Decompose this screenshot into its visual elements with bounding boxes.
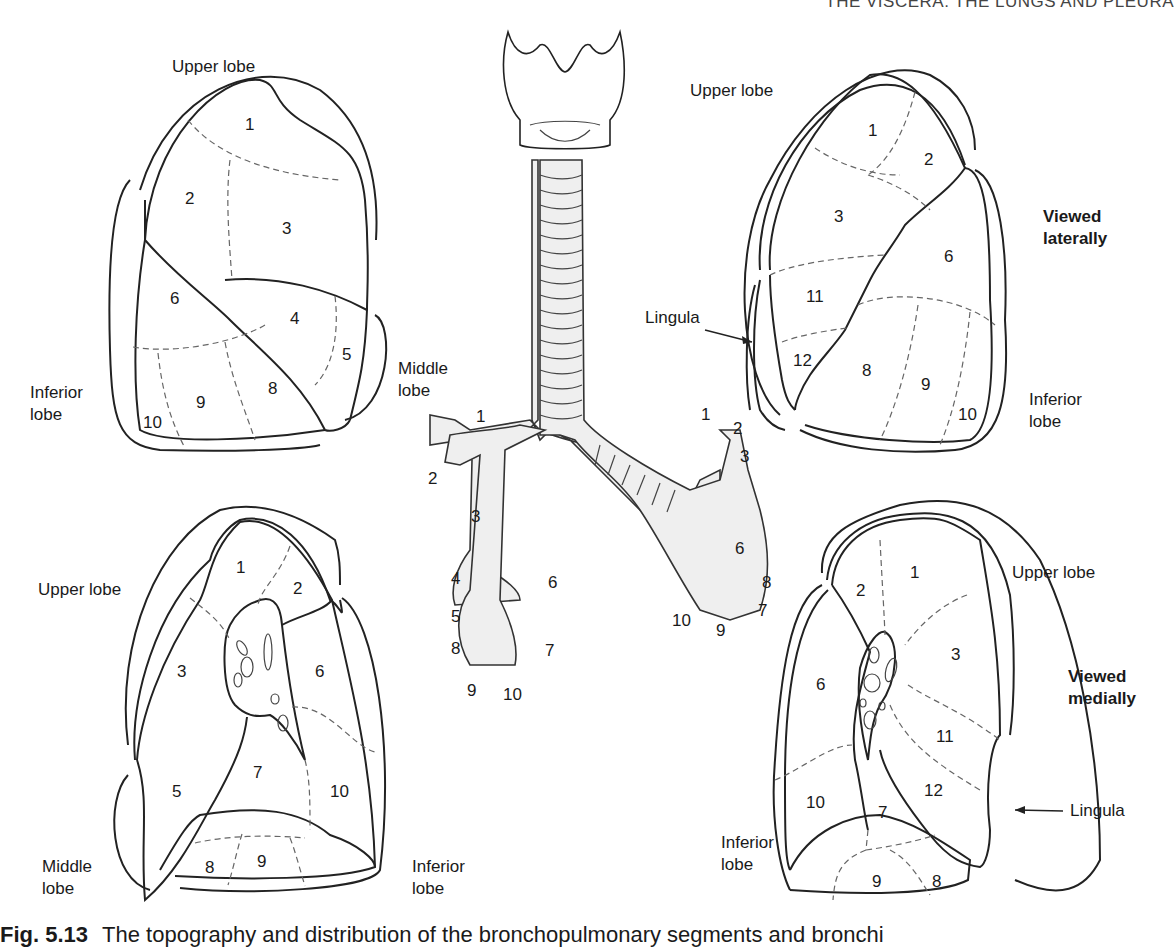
segment-label: 6 <box>944 247 953 266</box>
upper-lobe-label: Upper lobe <box>38 580 121 599</box>
segment-label: 5 <box>172 782 181 801</box>
caption-text: The topography and distribution of the b… <box>102 922 884 947</box>
left-lung-lateral-view: 1 2 3 6 11 12 8 9 10 Upper lobe Lingula … <box>645 70 1108 452</box>
upper-lobe-label: Upper lobe <box>1012 563 1095 582</box>
segment-label: 1 <box>868 121 877 140</box>
segment-label: 3 <box>282 219 291 238</box>
figure-caption: Fig. 5.13The topography and distribution… <box>0 922 884 948</box>
segment-label: 1 <box>910 563 919 582</box>
inferior-lobe-label: Inferior <box>30 383 83 402</box>
upper-lobe-label: Upper lobe <box>690 81 773 100</box>
inferior-lobe-label: lobe <box>30 405 62 424</box>
segment-label: 10 <box>806 793 825 812</box>
right-bronchus-label: 8 <box>451 639 460 658</box>
lingula-label: Lingula <box>645 308 700 327</box>
segment-label: 6 <box>816 675 825 694</box>
right-bronchus-label: 4 <box>451 569 460 588</box>
segment-label: 12 <box>793 351 812 370</box>
segment-label: 5 <box>342 345 351 364</box>
segment-label: 9 <box>257 852 266 871</box>
segment-label: 9 <box>196 393 205 412</box>
segment-label: 6 <box>315 662 324 681</box>
bronchial-tree: 1 2 3 4 5 6 7 8 9 10 1 2 3 6 8 7 9 10 <box>428 32 771 704</box>
segment-label: 3 <box>951 645 960 664</box>
right-lung-lateral-view: 1 2 3 6 4 5 8 9 10 Upper lobe Middle lob… <box>30 57 448 451</box>
segment-label: 2 <box>924 150 933 169</box>
right-bronchus-label: 5 <box>451 607 460 626</box>
segment-label: 8 <box>268 379 277 398</box>
segment-label: 10 <box>330 782 349 801</box>
segment-label: 10 <box>958 405 977 424</box>
larynx <box>504 32 625 149</box>
middle-lobe-label: lobe <box>42 879 74 898</box>
left-lung-medial-view: 1 2 3 6 11 12 10 7 9 8 Upper lobe Lingul… <box>721 501 1137 900</box>
left-bronchus-label: 2 <box>733 419 742 438</box>
right-bronchus-label: 3 <box>471 507 480 526</box>
segment-label: 9 <box>921 375 930 394</box>
segment-label: 1 <box>236 558 245 577</box>
inferior-lobe-label: Inferior <box>1029 390 1082 409</box>
left-bronchus-label: 9 <box>716 621 725 640</box>
segment-label: 11 <box>806 287 824 306</box>
left-bronchus-label: 3 <box>740 447 749 466</box>
segment-label: 3 <box>834 207 843 226</box>
inferior-lobe-label: Inferior <box>412 857 465 876</box>
right-bronchus-label: 6 <box>548 573 557 592</box>
upper-lobe-label: Upper lobe <box>172 57 255 76</box>
segment-label: 6 <box>170 289 179 308</box>
segment-label: 3 <box>177 662 186 681</box>
segment-label: 8 <box>932 872 941 891</box>
left-bronchus-label: 1 <box>701 405 710 424</box>
view-label: laterally <box>1043 229 1108 248</box>
left-bronchus-label: 10 <box>672 611 691 630</box>
inferior-lobe-label: lobe <box>412 879 444 898</box>
lingula-label: Lingula <box>1070 801 1125 820</box>
right-bronchus-label: 2 <box>428 469 437 488</box>
right-bronchus-label: 1 <box>476 407 485 426</box>
segment-label: 9 <box>872 872 881 891</box>
view-label: Viewed <box>1068 667 1126 686</box>
segment-label: 10 <box>143 413 162 432</box>
inferior-lobe-label: Inferior <box>721 833 774 852</box>
right-bronchus-label: 10 <box>503 685 522 704</box>
inferior-lobe-label: lobe <box>721 855 753 874</box>
segment-label: 2 <box>856 581 865 600</box>
segment-label: 8 <box>862 361 871 380</box>
view-label: Viewed <box>1043 207 1101 226</box>
middle-lobe-label: lobe <box>398 381 430 400</box>
left-bronchus-label: 6 <box>735 539 744 558</box>
view-label: medially <box>1068 689 1137 708</box>
right-bronchus-label: 9 <box>467 681 476 700</box>
segment-label: 7 <box>253 763 262 782</box>
segment-label: 8 <box>205 858 214 877</box>
arrowhead-icon <box>1015 806 1025 814</box>
left-bronchus-label: 8 <box>762 573 771 592</box>
segment-label: 4 <box>290 309 299 328</box>
segment-label: 12 <box>924 781 943 800</box>
figure-number: Fig. 5.13 <box>0 922 88 947</box>
segment-label: 2 <box>293 579 302 598</box>
segment-label: 7 <box>878 803 887 822</box>
segment-label: 11 <box>936 727 954 746</box>
right-bronchus-label: 7 <box>545 641 554 660</box>
segment-label: 2 <box>185 189 194 208</box>
left-bronchus-label: 7 <box>758 601 767 620</box>
segment-label: 1 <box>245 115 254 134</box>
right-lung-medial-view: 1 2 3 6 7 5 10 8 9 Upper lobe Middle lob… <box>38 507 465 900</box>
inferior-lobe-label: lobe <box>1029 412 1061 431</box>
middle-lobe-label: Middle <box>42 857 92 876</box>
middle-lobe-label: Middle <box>398 359 448 378</box>
